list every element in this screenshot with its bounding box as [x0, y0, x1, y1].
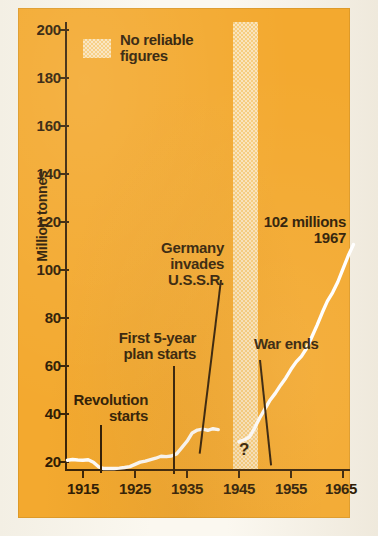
annotation-germany-line3: U.S.S.R.	[118, 272, 224, 288]
annotation-germany-line2: invades	[118, 256, 224, 272]
plot-area: 200 180 160 140 120 100 80 60 40 20 1915…	[18, 8, 350, 518]
annotation-peak-line2: 1967	[204, 230, 346, 246]
annotation-plan-line1: First 5-year	[66, 330, 196, 346]
annotation-war-ends: War ends	[254, 336, 354, 352]
annotation-germany-invades: Germany invades U.S.S.R.	[118, 240, 224, 289]
annotation-five-year-plan: First 5-year plan starts	[66, 330, 196, 362]
chart-panel: 200 180 160 140 120 100 80 60 40 20 1915…	[18, 8, 350, 518]
annotation-revolution-line1: Revolution	[38, 392, 148, 408]
leader-line-five-year-plan	[173, 366, 175, 474]
leader-line-revolution	[100, 425, 102, 473]
annotation-question-mark: ?	[239, 441, 249, 459]
chart-figure: 200 180 160 140 120 100 80 60 40 20 1915…	[0, 0, 378, 536]
annotation-plan-line2: plan starts	[66, 346, 196, 362]
annotation-revolution-line2: starts	[38, 408, 148, 424]
annotation-peak-value: 102 millions 1967	[204, 214, 346, 246]
annotation-revolution-starts: Revolution starts	[38, 392, 148, 424]
annotation-peak-line1: 102 millions	[204, 214, 346, 230]
